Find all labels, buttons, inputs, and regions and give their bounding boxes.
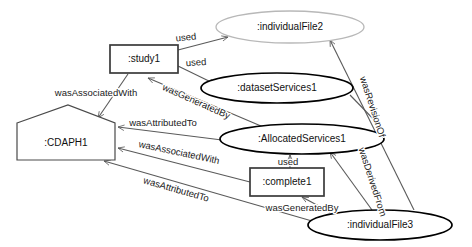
provenance-diagram-canvas: :individualFile2:study1:datasetServices1… — [0, 0, 472, 247]
edge-label-AllocatedServices1-wasAttributedTo-CDAPH1: wasAttributedTo — [128, 117, 197, 128]
node-label-datasetServices1: :datasetServices1 — [237, 82, 317, 93]
edge-label-study1-wasAssociatedWith-CDAPH1: wasAssociatedWith — [54, 87, 137, 98]
node-label-individualFile2: :individualFile2 — [257, 21, 324, 32]
edge-AllocatedServices1-wasAttributedTo-CDAPH1 — [118, 127, 222, 140]
node-label-individualFile3: :individualFile3 — [347, 219, 414, 230]
node-study1[interactable]: :study1 — [110, 45, 178, 73]
edge-label-individualFile3-wasDerivedFrom-AllocatedServices1: wasDerivedFrom — [356, 145, 389, 218]
node-shape-CDAPH1 — [17, 105, 115, 160]
node-datasetServices1[interactable]: :datasetServices1 — [201, 73, 353, 103]
node-label-study1: :study1 — [128, 53, 161, 64]
provenance-graph: :individualFile2:study1:datasetServices1… — [0, 0, 472, 247]
node-CDAPH1[interactable]: :CDAPH1 — [17, 105, 115, 160]
edge-label-study1-used-individualFile2: used — [175, 30, 197, 43]
node-label-AllocatedServices1: :AllocatedServices1 — [258, 133, 346, 144]
edge-label-complete1-wasAssociatedWith-CDAPH1: wasAssociatedWith — [137, 138, 221, 166]
node-individualFile2[interactable]: :individualFile2 — [216, 11, 364, 43]
node-label-complete1: :complete1 — [263, 176, 312, 187]
edge-label-study1-used-datasetServices1: used — [185, 56, 206, 68]
node-label-CDAPH1: :CDAPH1 — [44, 137, 88, 148]
node-complete1[interactable]: :complete1 — [250, 168, 324, 196]
edge-label-complete1-used-AllocatedServices1: used — [278, 156, 299, 167]
edge-label-individualFile3-wasGeneratedBy-complete1: wasGeneratedBy — [265, 202, 339, 213]
